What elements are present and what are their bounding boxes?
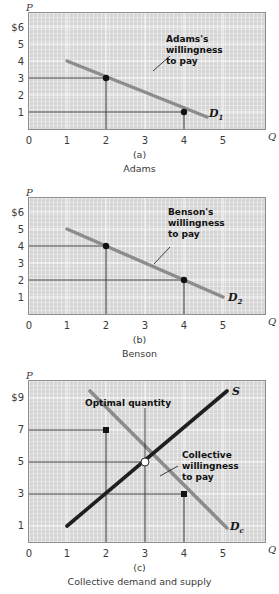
x-tick-a-3: 3 bbox=[134, 135, 156, 146]
x-tick-c-3: 3 bbox=[134, 548, 156, 559]
y-tick-a-1: 1 bbox=[2, 107, 24, 118]
y-tick-c-3: 3 bbox=[2, 488, 24, 499]
x-tick-a-5: 5 bbox=[212, 135, 234, 146]
panel-benson: P Q bbox=[0, 185, 279, 365]
y-tick-c-7: 7 bbox=[2, 424, 24, 435]
y-tick-a-3: 3 bbox=[2, 73, 24, 84]
data-point-c-1 bbox=[103, 427, 109, 433]
curve-label-d2: D2 bbox=[228, 291, 242, 306]
y-tick-b-5: 5 bbox=[2, 224, 24, 235]
y-tick-b-2: 2 bbox=[2, 275, 24, 286]
caption-letter-b: (b) bbox=[0, 334, 279, 345]
curve-label-dc-text: D bbox=[230, 520, 240, 533]
x-tick-b-3: 3 bbox=[134, 320, 156, 331]
x-tick-c-4: 4 bbox=[173, 548, 195, 559]
caption-letter-c: (c) bbox=[0, 562, 279, 573]
x-tick-b-1: 1 bbox=[56, 320, 78, 331]
annotation-optimal-quantity: Optimal quantity bbox=[85, 398, 171, 409]
y-tick-a-4: 4 bbox=[2, 56, 24, 67]
y-tick-b-4: 4 bbox=[2, 241, 24, 252]
x-tick-a-1: 1 bbox=[56, 135, 78, 146]
x-tick-c-5: 5 bbox=[212, 548, 234, 559]
panel-adams: P Q bbox=[0, 0, 279, 180]
y-tick-c-1: 1 bbox=[2, 520, 24, 531]
curve-label-d2-text: D bbox=[228, 291, 238, 304]
x-tick-c-0: 0 bbox=[18, 548, 40, 559]
curve-label-dc-sub: c bbox=[240, 526, 244, 535]
x-tick-c-1: 1 bbox=[56, 548, 78, 559]
y-tick-a-5: 5 bbox=[2, 39, 24, 50]
x-tick-b-5: 5 bbox=[212, 320, 234, 331]
caption-name-c: Collective demand and supply bbox=[0, 576, 279, 587]
y-tick-b-1: 1 bbox=[2, 292, 24, 303]
x-tick-b-2: 2 bbox=[95, 320, 117, 331]
annotation-adams-willingness: Adams's willingness to pay bbox=[166, 34, 223, 67]
y-tick-a-6: $6 bbox=[2, 22, 24, 33]
data-point-b-1 bbox=[103, 243, 109, 249]
data-point-c-2 bbox=[181, 491, 187, 497]
x-tick-c-2: 2 bbox=[95, 548, 117, 559]
x-tick-a-4: 4 bbox=[173, 135, 195, 146]
annotation-benson-willingness: Benson's willingness to pay bbox=[168, 207, 225, 240]
y-tick-c-5: 5 bbox=[2, 456, 24, 467]
x-tick-b-4: 4 bbox=[173, 320, 195, 331]
curve-label-d1: D1 bbox=[209, 107, 223, 122]
curve-label-dc: Dc bbox=[230, 520, 244, 535]
x-tick-a-0: 0 bbox=[18, 135, 40, 146]
data-point-a-2 bbox=[181, 109, 187, 115]
curve-label-s: S bbox=[232, 385, 240, 398]
y-tick-a-2: 2 bbox=[2, 90, 24, 101]
y-tick-b-3: 3 bbox=[2, 258, 24, 269]
economics-figure: P Q bbox=[0, 0, 279, 594]
y-tick-b-6: $6 bbox=[2, 207, 24, 218]
x-tick-b-0: 0 bbox=[18, 320, 40, 331]
panel-collective: P Q bbox=[0, 368, 279, 594]
caption-letter-a: (a) bbox=[0, 149, 279, 160]
data-point-a-1 bbox=[103, 75, 109, 81]
data-point-b-2 bbox=[181, 277, 187, 283]
curve-label-d2-sub: 2 bbox=[238, 297, 243, 306]
curve-label-d1-text: D bbox=[209, 107, 219, 120]
curve-d1 bbox=[67, 61, 207, 117]
curve-label-d1-sub: 1 bbox=[219, 113, 224, 122]
equilibrium-point bbox=[141, 458, 149, 466]
annotation-collective-willingness: Collective willingness to pay bbox=[182, 450, 239, 483]
caption-name-a: Adams bbox=[0, 163, 279, 174]
x-tick-a-2: 2 bbox=[95, 135, 117, 146]
caption-name-b: Benson bbox=[0, 348, 279, 359]
y-tick-c-9: $9 bbox=[2, 392, 24, 403]
